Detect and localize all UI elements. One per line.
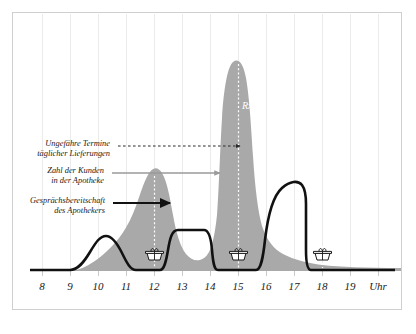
- axis-tick-19: 19: [345, 280, 356, 292]
- axis-tick-14: 14: [205, 280, 216, 292]
- axis-tick-17: 17: [289, 280, 300, 292]
- axis-tick-18: 18: [317, 280, 328, 292]
- axis-tick-11: 11: [121, 280, 131, 292]
- axis-tick-12: 12: [149, 280, 160, 292]
- annotation-deliveries-line2: täglicher Lieferungen: [37, 149, 110, 159]
- axis-ticks: [43, 271, 379, 276]
- annotation-customers-line2: in der Apotheke: [47, 176, 104, 186]
- annotation-deliveries-line1: Ungefähre Termine: [37, 139, 110, 149]
- annotation-pharmacist-line2: des Apothekers: [30, 206, 105, 216]
- axis-tick-9: 9: [67, 280, 73, 292]
- package-icon: [314, 249, 332, 260]
- axis-tick-13: 13: [177, 280, 188, 292]
- annotation-customers-label: Zahl der Kunden in der Apotheke: [47, 166, 104, 186]
- area-series-customers: [70, 61, 401, 271]
- axis-tick-10: 10: [93, 280, 104, 292]
- axis-tick-8: 8: [39, 280, 45, 292]
- annotation-pharmacist-label: Gesprächsbereitschaft des Apothekers: [30, 196, 105, 216]
- annotation-pharmacist-line1: Gesprächsbereitschaft: [30, 196, 105, 206]
- rx-label: Rx: [242, 100, 253, 111]
- axis-unit-label: Uhr: [369, 280, 387, 292]
- figure-container: Ungefähre Termine täglicher Lieferungen …: [0, 0, 416, 334]
- axis-tick-16: 16: [261, 280, 272, 292]
- delivery-time-markers: [155, 64, 323, 268]
- annotation-customers-line1: Zahl der Kunden: [47, 166, 104, 176]
- annotation-deliveries-label: Ungefähre Termine täglicher Lieferungen: [37, 139, 110, 159]
- axis-tick-15: 15: [233, 280, 244, 292]
